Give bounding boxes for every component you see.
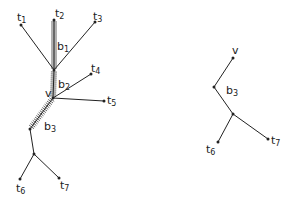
- node-j3: [232, 113, 235, 116]
- right-tree: vb3t6t7: [206, 44, 280, 157]
- edge-j3-t6: [218, 114, 233, 142]
- label-v: v: [45, 87, 52, 100]
- label-t4: t4: [91, 62, 100, 76]
- node-j1: [53, 69, 56, 72]
- label-t5: t5: [107, 94, 116, 108]
- node-t6: [19, 178, 22, 181]
- node-j2: [29, 128, 32, 131]
- left-tree: t1t2t3t4t5t6t7vb1b2b3: [16, 7, 116, 196]
- node-j3: [33, 153, 36, 156]
- node-v: [52, 97, 55, 100]
- edge-v-j2: [214, 58, 233, 87]
- label-b3: b3: [226, 84, 238, 98]
- tree-diagram: t1t2t3t4t5t6t7vb1b2b3 vb3t6t7: [0, 0, 294, 200]
- label-t3: t3: [93, 10, 102, 24]
- label-b1: b1: [57, 40, 69, 54]
- edge-j3-t7: [34, 154, 59, 178]
- edge-j3-t7: [233, 114, 268, 139]
- edge-t5-v: [53, 98, 104, 101]
- label-t6: t6: [16, 182, 25, 196]
- label-t2: t2: [55, 7, 64, 21]
- node-t7: [267, 138, 270, 141]
- edge-j2-j3: [30, 129, 34, 154]
- edge-t1-j1: [21, 25, 54, 70]
- label-t6: t6: [206, 143, 215, 157]
- node-t5: [103, 100, 106, 103]
- label-t7: t7: [60, 179, 69, 193]
- label-v: v: [232, 44, 239, 57]
- label-b2: b2: [58, 78, 70, 92]
- node-t6: [217, 141, 220, 144]
- label-t1: t1: [17, 11, 26, 25]
- label-b3: b3: [44, 120, 56, 134]
- node-j2: [213, 86, 216, 89]
- label-t7: t7: [271, 134, 280, 148]
- edge-j3-t6: [20, 154, 34, 179]
